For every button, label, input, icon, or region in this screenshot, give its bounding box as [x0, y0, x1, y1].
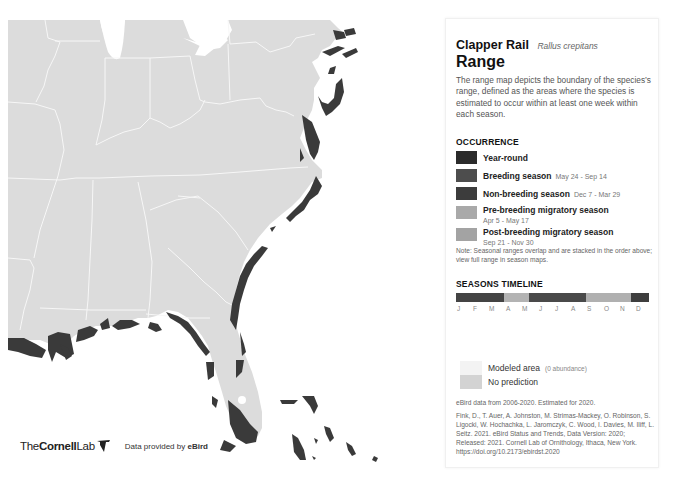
legend-item-year-round: Year-round — [456, 151, 528, 164]
legend-panel: Clapper Rail Rallus crepitans Range The … — [445, 18, 659, 468]
swatch-non-breeding — [456, 187, 477, 200]
citation: Fink, D., T. Auer, A. Johnston, M. Strim… — [456, 412, 656, 457]
swatch-breeding — [456, 169, 477, 182]
swatch-pre-breeding — [456, 206, 477, 219]
section-title: Range — [456, 53, 505, 71]
lake-okeechobee — [238, 396, 246, 404]
ebird-data-range: eBird data from 2006-2020. Estimated for… — [456, 399, 595, 406]
swatch-post-breeding — [456, 228, 477, 241]
map-credits: TheCornellLab Data provided by eBird — [20, 436, 208, 456]
occurrence-heading: OCCURRENCE — [456, 137, 519, 147]
legend-note: Note: Seasonal ranges overlap and are st… — [456, 246, 656, 264]
land-area — [8, 20, 345, 442]
data-provided-by: Data provided by eBird — [125, 442, 208, 451]
seasons-timeline — [456, 293, 649, 302]
map-canvas — [0, 0, 440, 500]
swatch-year-round — [456, 151, 477, 164]
legend-item-non-breeding: Non-breeding seasonDec 7 - Mar 29 — [456, 187, 620, 200]
range-description: The range map depicts the boundary of th… — [456, 75, 654, 121]
timeline-non-breeding-end — [631, 293, 649, 302]
legend-modeled-area: Modeled area (0 abundance) — [460, 361, 587, 375]
common-name: Clapper Rail — [456, 38, 529, 52]
species-title: Clapper Rail Rallus crepitans — [456, 35, 598, 53]
cornell-lab-logo[interactable]: TheCornellLab — [20, 439, 111, 453]
timeline-pre-breeding — [504, 293, 529, 302]
seasons-heading: SEASONS TIMELINE — [456, 279, 543, 289]
timeline-non-breeding — [456, 293, 504, 302]
cornell-bird-icon — [97, 439, 111, 453]
scientific-name: Rallus crepitans — [537, 41, 597, 51]
swatch-no-prediction — [460, 375, 482, 389]
legend-item-breeding: Breeding seasonMay 24 - Sep 14 — [456, 169, 607, 182]
swatch-modeled-area — [460, 361, 482, 375]
timeline-post-breeding — [586, 293, 630, 302]
legend-item-post-breeding: Post-breeding migratory seasonSep 21 - N… — [456, 225, 613, 248]
range-map[interactable] — [0, 0, 440, 500]
legend-item-pre-breeding: Pre-breeding migratory seasonApr 5 - May… — [456, 203, 609, 226]
timeline-months: J F M A M J J A S O N D — [456, 305, 649, 314]
legend-no-prediction: No prediction — [460, 375, 538, 389]
timeline-breeding — [529, 293, 586, 302]
ebird-link[interactable]: eBird — [187, 442, 207, 451]
